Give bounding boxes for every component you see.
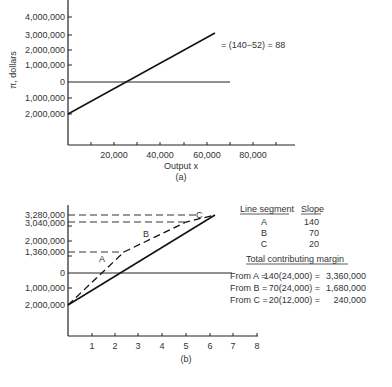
slope-cell: 20 — [309, 239, 319, 249]
profit-line — [68, 33, 215, 114]
x-tick: 20,000 — [100, 150, 128, 160]
y-tick: 1,000,000 — [25, 283, 65, 293]
segment-label-a: A — [99, 254, 105, 264]
header-segment: Line segment — [240, 204, 295, 214]
segment-cell: C — [261, 239, 268, 249]
y-tick: 1,000,000 — [25, 93, 65, 103]
x-tick: 4 — [159, 341, 164, 351]
margin-table: Total contributing margin From A = 140(2… — [230, 254, 366, 305]
y-tick: 1,360,000 — [25, 247, 65, 257]
panel-a: 4,000,000 3,000,000 2,000,000 1,000,000 … — [8, 0, 295, 182]
y-tick: 3,040,000 — [25, 218, 65, 228]
margin-row-expr: 70(24,000) = — [269, 283, 320, 293]
average-margin-line — [68, 215, 215, 305]
segment-cell: B — [261, 228, 267, 238]
y-tick: 0 — [60, 268, 65, 278]
y-tick: 0 — [60, 77, 65, 87]
x-tick: 8 — [254, 341, 259, 351]
segment-label-c: C — [196, 210, 203, 220]
segment-cell: A — [261, 217, 267, 227]
x-tick: 80,000 — [239, 150, 267, 160]
x-tick: 2 — [112, 341, 117, 351]
y-tick: 2,000,000 — [25, 236, 65, 246]
panel-b: 3,280,000 3,040,000 2,000,000 1,360,000 … — [25, 205, 260, 364]
y-tick: 2,000,000 — [25, 45, 65, 55]
x-tick: 7 — [230, 341, 235, 351]
x-tick: 60,000 — [193, 150, 221, 160]
margin-row-value: 240,000 — [333, 295, 366, 305]
figure: 4,000,000 3,000,000 2,000,000 1,000,000 … — [0, 0, 392, 387]
slope-cell: 140 — [304, 217, 319, 227]
slope-annotation: = (140−52) = 88 — [221, 40, 285, 50]
y-tick: 2,000,000 — [25, 300, 65, 310]
margin-row-value: 3,360,000 — [326, 271, 366, 281]
margin-row-value: 1,680,000 — [326, 283, 366, 293]
y-tick: 3,000,000 — [25, 30, 65, 40]
slope-cell: 70 — [309, 228, 319, 238]
y-tick: 1,000,000 — [25, 60, 65, 70]
y-axis-label: π, dollars — [8, 51, 18, 89]
panel-caption: (a) — [176, 172, 187, 182]
header-slope: Slope — [301, 204, 324, 214]
x-tick: 6 — [207, 341, 212, 351]
x-tick: 40,000 — [146, 150, 174, 160]
margin-row-expr: 20(12,000) = — [269, 295, 320, 305]
segment-label-b: B — [143, 229, 149, 239]
margin-row-label: From C = — [230, 295, 268, 305]
x-tick: 5 — [183, 341, 188, 351]
x-axis-label: Output x — [164, 161, 199, 171]
margin-row-label: From B = — [230, 283, 267, 293]
slope-table: Line segment Slope A 140 B 70 C 20 — [240, 204, 324, 249]
margin-row-expr: 140(24,000) = — [264, 271, 320, 281]
panel-caption: (b) — [181, 354, 192, 364]
y-tick: 2,000,000 — [25, 109, 65, 119]
margin-row-label: From A = — [230, 271, 266, 281]
x-tick: 1 — [89, 341, 94, 351]
margin-title: Total contributing margin — [246, 254, 344, 264]
x-tick: 3 — [135, 341, 140, 351]
y-tick: 4,000,000 — [25, 12, 65, 22]
